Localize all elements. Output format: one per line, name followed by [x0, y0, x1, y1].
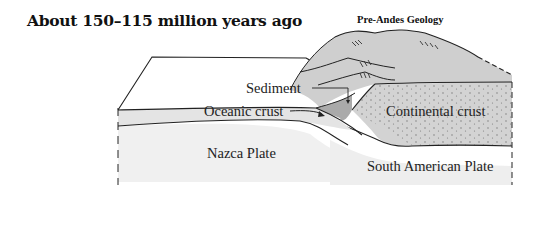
- label-nazca-plate: Nazca Plate: [207, 145, 276, 162]
- label-south-american-plate: South American Plate: [367, 158, 493, 175]
- label-oceanic-crust: Oceanic crust: [204, 103, 283, 120]
- label-continental-crust: Continental crust: [386, 103, 485, 120]
- label-sediment: Sediment: [246, 80, 301, 97]
